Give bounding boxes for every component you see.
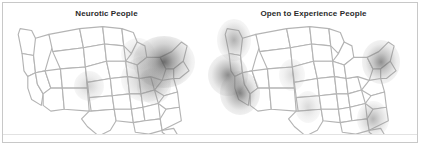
state-outlines — [18, 27, 189, 138]
panel-openness: Open to Experience People — [210, 3, 417, 142]
us-map-openness — [214, 19, 413, 138]
us-map-outline-neurotic — [7, 19, 206, 138]
panel-title-openness: Open to Experience People — [210, 9, 417, 19]
us-map-neurotic — [7, 19, 206, 138]
panel-title-neurotic: Neurotic People — [3, 9, 210, 19]
map-panel-container: Neurotic People — [3, 3, 417, 142]
panel-neurotic: Neurotic People — [3, 3, 210, 142]
figure-frame: Neurotic People — [2, 2, 418, 143]
us-map-outline-openness — [214, 19, 413, 138]
figure-footer-strip — [3, 134, 417, 142]
state-outlines — [225, 27, 396, 138]
